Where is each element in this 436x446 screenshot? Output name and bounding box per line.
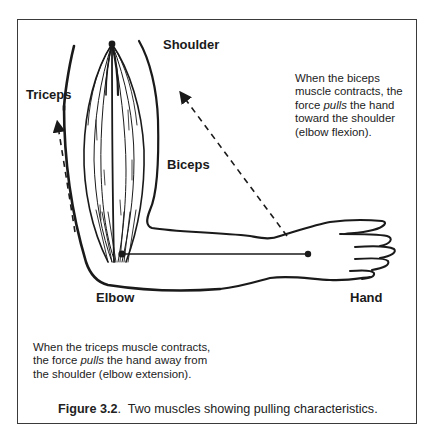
figure-number: Figure 3.2	[58, 402, 118, 416]
hand-fingers	[340, 234, 395, 279]
triceps-note: When the triceps muscle contracts, the f…	[33, 341, 218, 381]
caption-text: Two muscles showing pulling characterist…	[121, 402, 378, 416]
elbow-pivot-point	[118, 250, 125, 257]
biceps-note-emphasis: pulls	[324, 99, 347, 111]
triceps-label: Triceps	[26, 87, 72, 102]
hand-point	[305, 251, 311, 257]
figure-caption: Figure 3.2. Two muscles showing pulling …	[58, 402, 378, 416]
triceps-note-emphasis: pulls	[81, 354, 104, 366]
forearm-bottom-outline	[220, 277, 370, 289]
biceps-note: When the biceps muscle contracts, the fo…	[295, 72, 415, 139]
arrow-up-dashed-icon	[58, 126, 75, 232]
biceps-label: Biceps	[167, 157, 210, 172]
shoulder-label: Shoulder	[163, 37, 219, 52]
hand-label: Hand	[350, 290, 383, 305]
upper-arm-front-outline	[139, 41, 385, 238]
elbow-label: Elbow	[96, 290, 134, 305]
biceps-muscle	[84, 44, 144, 262]
shoulder-origin-point	[109, 41, 116, 48]
